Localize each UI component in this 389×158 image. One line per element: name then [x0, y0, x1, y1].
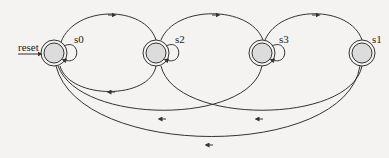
state-label: s0	[74, 33, 84, 45]
state-label: s3	[279, 33, 289, 45]
reset-label: reset	[18, 41, 39, 53]
edge-s2-s0	[60, 66, 156, 92]
edge-s1-s0	[56, 66, 360, 137]
state-label: s1	[372, 33, 382, 45]
edge-s1-s2	[161, 66, 362, 110]
state-s3: s3	[249, 33, 289, 66]
initial-arrow: reset	[18, 41, 40, 54]
state-label: s2	[175, 33, 185, 45]
state-diagram: reset s0 s2 s3 s1	[0, 0, 389, 158]
state-s1: s1	[349, 33, 382, 66]
edge-s3-s0	[58, 66, 262, 110]
